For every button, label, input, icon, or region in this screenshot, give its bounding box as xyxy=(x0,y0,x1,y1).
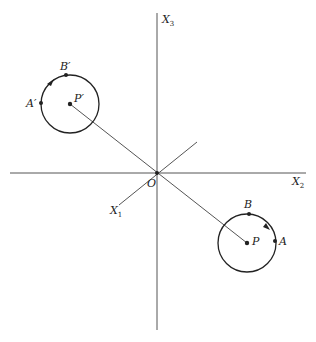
x1-label: X1 xyxy=(109,204,122,219)
p-label: P xyxy=(251,235,260,248)
origin-label: O xyxy=(147,177,156,190)
point-p-prime xyxy=(68,102,72,106)
b-prime-label: B′ xyxy=(59,60,71,73)
point-p xyxy=(245,241,249,245)
x2-label: X2 xyxy=(291,175,304,190)
point-b xyxy=(247,212,251,216)
a-prime-label: A′ xyxy=(25,97,37,110)
point-a-prime xyxy=(39,101,43,105)
point-a xyxy=(273,239,277,243)
b-label: B xyxy=(243,198,252,211)
a-label: A xyxy=(278,235,287,248)
origin-point xyxy=(155,171,159,175)
point-b-prime xyxy=(64,73,68,77)
p-prime-label: P′ xyxy=(73,92,84,105)
diagram-canvas: X3 X2 X1 O P′ B′ A′ P B A xyxy=(0,0,316,342)
x3-label: X3 xyxy=(161,13,174,28)
